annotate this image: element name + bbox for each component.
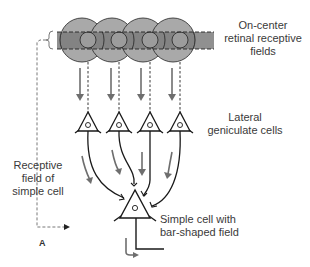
label-retinal-fields: On-center retinal receptive fields bbox=[218, 19, 308, 58]
convergence-arrows bbox=[82, 150, 172, 180]
brace-icon bbox=[46, 31, 53, 49]
panel-label: A bbox=[39, 238, 46, 248]
lgn-cell-2 bbox=[106, 112, 132, 133]
label-line: On-center bbox=[218, 19, 308, 32]
label-line: Simple cell with bbox=[160, 213, 239, 226]
lateral-geniculate-cells bbox=[75, 112, 193, 133]
label-lgn-cells: Lateral geniculate cells bbox=[200, 111, 290, 137]
label-line: geniculate cells bbox=[200, 124, 290, 137]
lgn-cell-1 bbox=[75, 112, 101, 133]
label-line: field of bbox=[8, 172, 68, 185]
label-line: bar-shaped field bbox=[160, 226, 239, 239]
simple-cell bbox=[114, 190, 164, 249]
label-line: Lateral bbox=[200, 111, 290, 124]
lgn-cell-4 bbox=[167, 112, 193, 133]
output-arrow bbox=[126, 238, 134, 255]
receptive-field-indicator bbox=[37, 31, 70, 230]
label-line: Receptive bbox=[8, 159, 68, 172]
label-receptive-field: Receptive field of simple cell bbox=[8, 159, 68, 198]
retina-to-lgn-projections bbox=[88, 62, 180, 112]
label-line: simple cell bbox=[8, 185, 68, 198]
lgn-cell-3 bbox=[137, 112, 163, 133]
retinal-receptive-fields bbox=[57, 18, 214, 62]
label-line: fields bbox=[218, 45, 308, 58]
label-simple-cell: Simple cell with bar-shaped field bbox=[160, 213, 239, 239]
label-line: retinal receptive bbox=[218, 32, 308, 45]
signal-flow-arrows bbox=[76, 68, 176, 101]
